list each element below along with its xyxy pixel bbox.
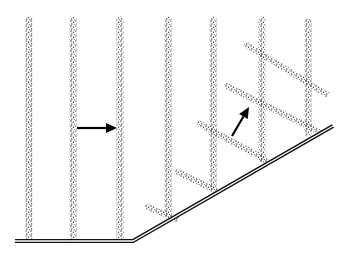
horizontal-arrow xyxy=(77,123,117,133)
diagonal-stripes-group xyxy=(148,45,326,219)
slope-stripe-diagram xyxy=(0,0,345,256)
ground-outer-line xyxy=(15,126,333,241)
vertical-stripes-group xyxy=(29,20,308,240)
diagonal-stripe-4 xyxy=(178,172,215,190)
diagonal-stripe-2 xyxy=(227,86,318,131)
ground-inner-line xyxy=(15,126,333,241)
diagonal-arrow xyxy=(232,107,249,136)
arrows-group xyxy=(77,107,249,136)
arrowhead-icon xyxy=(106,123,117,133)
arrow-shaft xyxy=(232,116,243,136)
ground-line xyxy=(15,126,333,241)
